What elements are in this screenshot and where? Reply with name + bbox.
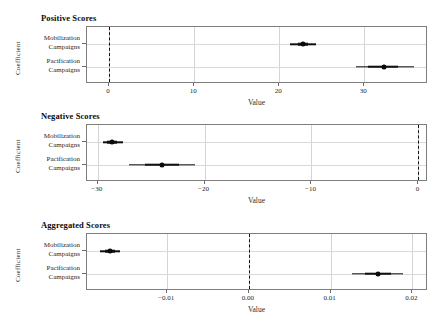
y-tick-label-line: Campaigns — [44, 250, 80, 259]
y-tick-mark — [82, 141, 86, 142]
y-tick-label-line: Pacification — [47, 155, 80, 164]
x-tick-mark — [330, 290, 331, 293]
y-tick-mark — [82, 164, 86, 165]
x-axis-label: Value — [86, 98, 427, 107]
gridline-horizontal — [87, 142, 426, 143]
y-tick-mark — [82, 250, 86, 251]
y-tick-label-line: Mobilization — [44, 241, 80, 250]
x-tick-label: −10 — [305, 185, 316, 193]
y-tick-mark — [82, 66, 86, 67]
x-tick-mark — [204, 181, 205, 184]
x-tick-mark — [193, 83, 194, 86]
gridline-vertical — [167, 234, 168, 289]
y-tick-mark — [82, 273, 86, 274]
x-tick-label: −20 — [198, 185, 209, 193]
estimate-point — [107, 249, 112, 254]
gridline-vertical — [311, 125, 312, 180]
plot-area — [86, 233, 427, 290]
gridline-horizontal — [87, 251, 426, 252]
y-tick-label: MobilizationCampaigns — [44, 34, 80, 52]
gridline-vertical — [279, 27, 280, 82]
y-tick-label: PacificationCampaigns — [47, 155, 80, 173]
y-tick-label-line: Mobilization — [44, 34, 80, 43]
x-tick-mark — [166, 290, 167, 293]
y-axis-label: Coefficient — [14, 248, 22, 282]
y-tick-label-line: Campaigns — [47, 164, 80, 173]
x-tick-mark — [97, 181, 98, 184]
estimate-point — [109, 140, 114, 145]
y-tick-label-line: Campaigns — [44, 141, 80, 150]
x-tick-label: 0.00 — [242, 294, 254, 302]
x-axis-label: Value — [86, 305, 427, 314]
panel-title: Negative Scores — [41, 111, 100, 121]
y-tick-label-line: Campaigns — [47, 273, 80, 282]
gridline-vertical — [412, 234, 413, 289]
y-tick-label: PacificationCampaigns — [47, 57, 80, 75]
x-tick-mark — [248, 290, 249, 293]
y-tick-label-line: Campaigns — [47, 66, 80, 75]
gridline-vertical — [364, 27, 365, 82]
y-tick-label-line: Campaigns — [44, 43, 80, 52]
x-tick-mark — [108, 83, 109, 86]
gridline-vertical — [331, 234, 332, 289]
plot-area — [86, 26, 427, 83]
estimate-point — [300, 42, 305, 47]
x-tick-mark — [278, 83, 279, 86]
zero-reference-line — [249, 234, 250, 289]
panel-title: Positive Scores — [41, 13, 96, 23]
zero-reference-line — [418, 125, 419, 180]
y-tick-label-line: Pacification — [47, 264, 80, 273]
gridline-vertical — [205, 125, 206, 180]
y-tick-label: MobilizationCampaigns — [44, 132, 80, 150]
y-tick-label-line: Pacification — [47, 57, 80, 66]
y-tick-label: PacificationCampaigns — [47, 264, 80, 282]
x-tick-mark — [310, 181, 311, 184]
x-tick-label: −0.01 — [158, 294, 174, 302]
plot-area — [86, 124, 427, 181]
y-tick-label: MobilizationCampaigns — [44, 241, 80, 259]
estimate-point — [381, 64, 386, 69]
x-tick-mark — [363, 83, 364, 86]
forest-plot-figure: Positive ScoresCoefficientMobilizationCa… — [0, 0, 447, 322]
x-axis-label: Value — [86, 196, 427, 205]
y-axis-label: Coefficient — [14, 41, 22, 75]
zero-reference-line — [109, 27, 110, 82]
x-tick-label: 10 — [190, 87, 197, 95]
y-tick-label-line: Mobilization — [44, 132, 80, 141]
x-tick-label: 0 — [106, 87, 110, 95]
gridline-vertical — [98, 125, 99, 180]
estimate-point — [159, 162, 164, 167]
gridline-horizontal — [87, 44, 426, 45]
estimate-point — [376, 271, 381, 276]
x-tick-mark — [411, 290, 412, 293]
x-tick-label: 0.02 — [405, 294, 417, 302]
y-tick-mark — [82, 43, 86, 44]
x-tick-mark — [417, 181, 418, 184]
y-axis-label: Coefficient — [14, 139, 22, 173]
x-tick-label: 30 — [360, 87, 367, 95]
x-tick-label: −30 — [91, 185, 102, 193]
gridline-vertical — [194, 27, 195, 82]
x-tick-label: 0 — [416, 185, 420, 193]
panel-title: Aggregated Scores — [41, 220, 110, 230]
x-tick-label: 20 — [275, 87, 282, 95]
x-tick-label: 0.01 — [324, 294, 336, 302]
